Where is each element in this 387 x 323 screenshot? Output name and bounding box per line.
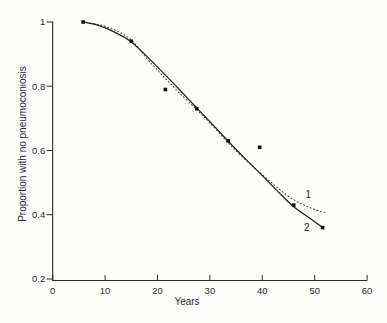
x-tick-label: 0 <box>50 285 55 296</box>
data-point-marker <box>164 88 168 92</box>
fitted-curve-1 <box>83 22 325 213</box>
y-tick-label: 0.8 <box>32 81 45 92</box>
y-axis-title: Proportion with no pneumoconiosis <box>17 66 28 222</box>
x-tick-label: 20 <box>152 285 163 296</box>
curve-label-1: 1 <box>306 189 312 200</box>
x-tick-label: 10 <box>100 285 111 296</box>
x-tick-label: 60 <box>362 285 373 296</box>
fitted-curve-2 <box>83 22 323 228</box>
y-tick-label: 1 <box>40 16 45 27</box>
x-tick-label: 40 <box>257 285 268 296</box>
pneumoconiosis-survival-chart: 10.80.60.40.2010203040506012 Years Propo… <box>0 0 387 323</box>
x-axis-title: Years <box>174 296 199 307</box>
figure-canvas: 10.80.60.40.2010203040506012 Years Propo… <box>0 0 387 323</box>
data-point-marker <box>226 139 230 143</box>
curve-label-2: 2 <box>304 222 310 233</box>
y-tick-label: 0.4 <box>32 209 45 220</box>
x-tick-label: 50 <box>309 285 320 296</box>
y-tick-label: 0.2 <box>32 273 45 284</box>
data-point-marker <box>321 226 325 230</box>
x-tick-label: 30 <box>205 285 216 296</box>
data-point-marker <box>292 203 296 207</box>
plot-area: 10.80.60.40.2010203040506012 <box>32 16 372 295</box>
data-point-marker <box>258 146 262 150</box>
data-point-marker <box>81 20 85 24</box>
axis-lines <box>53 22 367 281</box>
data-point-marker <box>195 107 199 111</box>
y-tick-label: 0.6 <box>32 145 45 156</box>
data-point-marker <box>130 40 134 44</box>
